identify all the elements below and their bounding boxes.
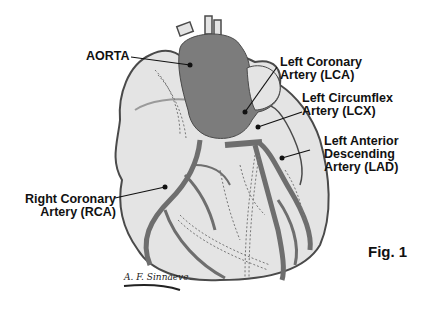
- label-aorta: AORTA: [86, 50, 130, 63]
- label-lca: Left Coronary Artery (LCA): [280, 56, 362, 82]
- artist-signature: A. F. Sinnaeve: [124, 272, 189, 282]
- label-lcx-line2: Artery (LCX): [302, 105, 393, 118]
- label-lca-line2: Artery (LCA): [280, 69, 362, 82]
- label-lad-line3: Artery (LAD): [324, 161, 399, 174]
- label-aorta-text: AORTA: [86, 49, 130, 63]
- figure-caption: Fig. 1: [368, 245, 407, 258]
- label-rca: Right Coronary Artery (RCA): [18, 193, 116, 219]
- label-lcx: Left Circumflex Artery (LCX): [302, 92, 393, 118]
- label-lad: Left Anterior Descending Artery (LAD): [324, 135, 399, 174]
- label-rca-line2: Artery (RCA): [18, 206, 116, 219]
